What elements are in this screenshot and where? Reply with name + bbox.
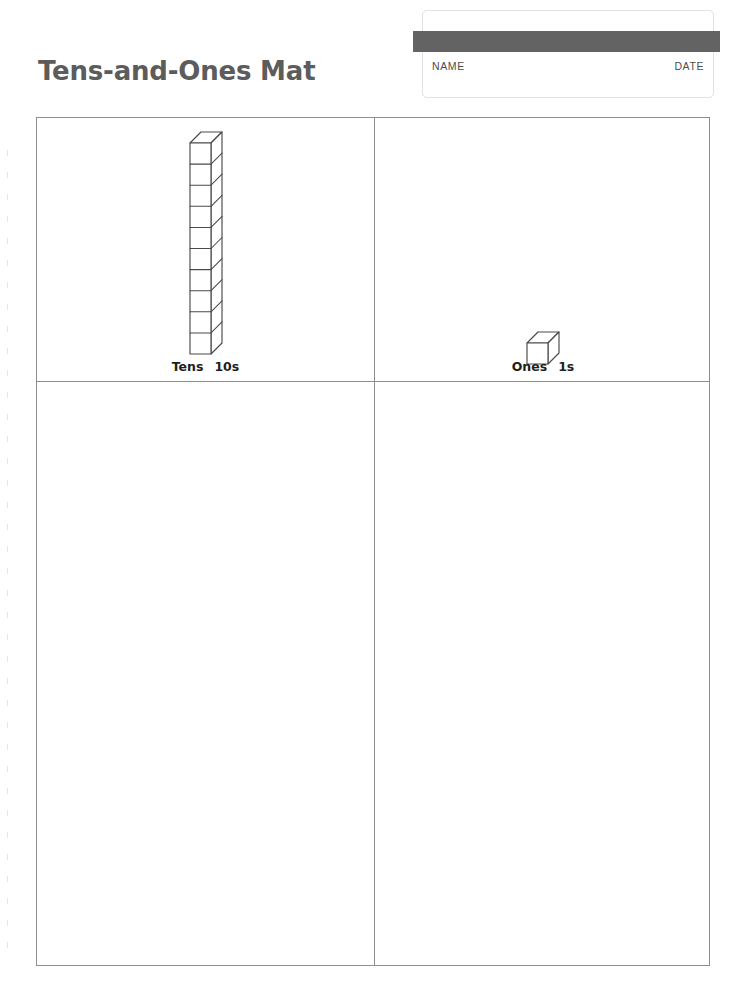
ones-caption-name: Ones bbox=[512, 359, 547, 374]
date-field-label[interactable]: DATE bbox=[674, 60, 704, 72]
name-date-card bbox=[422, 10, 714, 98]
place-value-mat: Tens10s Ones1s bbox=[36, 117, 710, 966]
perforation-line bbox=[7, 150, 8, 950]
tens-caption-unit: 10s bbox=[214, 359, 239, 374]
name-date-band bbox=[413, 31, 720, 52]
page-title: Tens-and-Ones Mat bbox=[38, 56, 315, 86]
ones-caption: Ones1s bbox=[375, 359, 711, 374]
ones-caption-unit: 1s bbox=[558, 359, 574, 374]
mat-cell-ones-header[interactable]: Ones1s bbox=[375, 118, 711, 381]
mat-cell-tens-header[interactable]: Tens10s bbox=[37, 118, 374, 381]
tens-caption: Tens10s bbox=[37, 359, 374, 374]
ten-rod-icon bbox=[185, 126, 227, 370]
name-date-fields: NAME DATE bbox=[432, 59, 704, 73]
mat-work-area-tens[interactable] bbox=[37, 382, 374, 967]
tens-caption-name: Tens bbox=[172, 359, 204, 374]
name-field-label[interactable]: NAME bbox=[432, 60, 465, 72]
mat-work-area-ones[interactable] bbox=[375, 382, 711, 967]
